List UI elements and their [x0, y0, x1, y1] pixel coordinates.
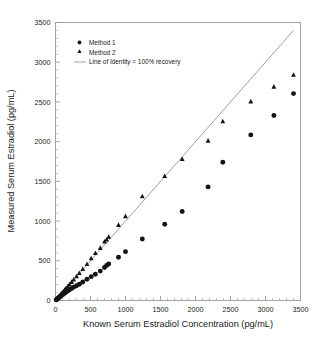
- data-point: [123, 249, 128, 254]
- data-point: [98, 269, 103, 274]
- data-point: [140, 236, 145, 241]
- y-tick-label: 1500: [35, 177, 51, 186]
- data-point: [248, 132, 253, 137]
- data-point: [206, 184, 211, 189]
- series-method-2-points: [54, 72, 296, 301]
- data-point: [206, 138, 211, 143]
- data-point: [85, 261, 90, 266]
- data-point: [116, 255, 121, 260]
- y-tick-label: 2000: [35, 137, 51, 146]
- data-point: [271, 113, 276, 118]
- y-tick-label: 500: [39, 256, 51, 265]
- data-point: [140, 194, 145, 199]
- y-axis-title: Measured Serum Estradiol (pg/mL): [6, 90, 16, 233]
- chart-legend: Method 1 Method 2 Line of Identity = 100…: [74, 39, 181, 66]
- data-point: [272, 84, 277, 89]
- legend-label-method-2: Method 2: [89, 49, 116, 56]
- y-tick-label: 3000: [35, 58, 51, 67]
- data-point: [106, 234, 111, 239]
- data-point: [180, 209, 185, 214]
- data-point: [291, 91, 296, 96]
- data-point: [291, 72, 296, 77]
- legend-label-method-1: Method 1: [89, 39, 116, 46]
- y-axis-major-ticks: [56, 23, 61, 301]
- data-point: [248, 99, 253, 104]
- data-point: [85, 277, 90, 282]
- x-tick-label: 2500: [223, 305, 239, 314]
- x-axis-tick-labels: 0500100015002000250030003500: [54, 305, 309, 314]
- x-tick-label: 500: [85, 305, 97, 314]
- y-axis-tick-labels: 0500100015002000250030003500: [35, 18, 51, 305]
- x-tick-label: 3000: [258, 305, 274, 314]
- legend-marker-circle-icon: [78, 41, 82, 45]
- data-point: [220, 119, 225, 124]
- data-point: [220, 160, 225, 165]
- x-axis-major-ticks: [56, 296, 301, 301]
- x-tick-label: 1500: [153, 305, 169, 314]
- y-tick-label: 0: [47, 296, 51, 305]
- x-axis-title: Known Serum Estradiol Concentration (pg/…: [83, 319, 273, 329]
- y-tick-label: 3500: [35, 18, 51, 27]
- chart-figure: 0500100015002000250030003500 05001000150…: [0, 0, 321, 349]
- scatter-plot: 0500100015002000250030003500 05001000150…: [0, 0, 321, 349]
- data-point: [123, 214, 128, 219]
- data-point: [89, 274, 94, 279]
- data-point: [106, 262, 111, 267]
- y-tick-label: 2500: [35, 98, 51, 107]
- legend-label-identity-line: Line of Identity = 100% recovery: [89, 58, 181, 66]
- x-tick-label: 3500: [293, 305, 309, 314]
- legend-marker-triangle-icon: [77, 49, 81, 53]
- series-method-1-points: [54, 91, 296, 302]
- x-tick-label: 2000: [188, 305, 204, 314]
- x-tick-label: 1000: [118, 305, 134, 314]
- data-point: [162, 222, 167, 227]
- data-point: [93, 272, 98, 277]
- data-point: [80, 280, 85, 285]
- data-point: [116, 222, 121, 227]
- x-tick-label: 0: [54, 305, 58, 314]
- y-tick-label: 1000: [35, 217, 51, 226]
